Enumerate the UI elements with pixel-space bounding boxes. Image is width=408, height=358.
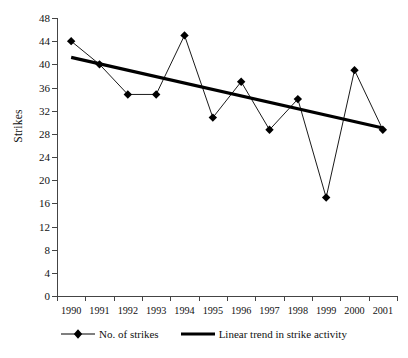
legend-label-trend: Linear trend in strike activity xyxy=(219,328,347,340)
strikes-line-chart: Strikes 04812162024283236404448 19901991… xyxy=(0,0,408,358)
legend-marker-line-icon xyxy=(61,328,95,340)
y-tick-label: 0 xyxy=(45,290,51,302)
y-tick-label: 4 xyxy=(45,267,51,279)
x-tick xyxy=(142,296,143,301)
x-tick-label: 1999 xyxy=(316,305,336,316)
y-tick-label: 32 xyxy=(39,105,50,117)
x-tick xyxy=(227,296,228,301)
data-point-marker xyxy=(209,113,217,121)
x-tick xyxy=(284,296,285,301)
y-tick-label: 40 xyxy=(39,58,50,70)
x-tick xyxy=(170,296,171,301)
x-tick-label: 1997 xyxy=(259,305,279,316)
y-tick-label: 20 xyxy=(39,174,50,186)
x-tick-label: 1994 xyxy=(174,305,194,316)
legend-item-trend: Linear trend in strike activity xyxy=(181,328,347,340)
legend-item-strikes: No. of strikes xyxy=(61,328,159,340)
x-tick xyxy=(255,296,256,301)
data-point-marker xyxy=(152,90,160,98)
y-tick-label: 24 xyxy=(39,151,50,163)
data-point-marker xyxy=(350,66,358,74)
y-tick-label: 48 xyxy=(39,12,50,24)
y-tick-label: 8 xyxy=(45,244,51,256)
x-tick xyxy=(369,296,370,301)
x-tick-label: 1992 xyxy=(118,305,138,316)
x-tick-label: 2000 xyxy=(344,305,364,316)
x-tick xyxy=(397,296,398,301)
legend-thick-line-icon xyxy=(181,328,215,340)
x-tick xyxy=(199,296,200,301)
y-tick-label: 12 xyxy=(39,221,50,233)
y-axis-title: Strikes xyxy=(12,86,24,166)
data-point-marker xyxy=(180,31,188,39)
y-tick-label: 44 xyxy=(39,35,50,47)
data-point-marker xyxy=(237,78,245,86)
data-point-marker xyxy=(322,193,330,201)
series-plot xyxy=(57,18,397,296)
x-tick-label: 1990 xyxy=(61,305,81,316)
x-tick-label: 1995 xyxy=(203,305,223,316)
x-tick xyxy=(312,296,313,301)
x-tick-label: 2001 xyxy=(373,305,393,316)
x-tick xyxy=(57,296,58,301)
legend-label-strikes: No. of strikes xyxy=(99,328,159,340)
y-tick-label: 36 xyxy=(39,82,50,94)
plot-area: 04812162024283236404448 1990199119921993… xyxy=(57,18,397,296)
x-tick-label: 1996 xyxy=(231,305,251,316)
chart-legend: No. of strikes Linear trend in strike ac… xyxy=(0,328,408,340)
y-tick-label: 28 xyxy=(39,128,50,140)
x-tick-label: 1991 xyxy=(89,305,109,316)
x-tick xyxy=(114,296,115,301)
x-tick-label: 1998 xyxy=(288,305,308,316)
x-tick xyxy=(85,296,86,301)
y-tick-label: 16 xyxy=(39,197,50,209)
x-tick xyxy=(340,296,341,301)
trend-line xyxy=(71,57,383,128)
x-tick-label: 1993 xyxy=(146,305,166,316)
